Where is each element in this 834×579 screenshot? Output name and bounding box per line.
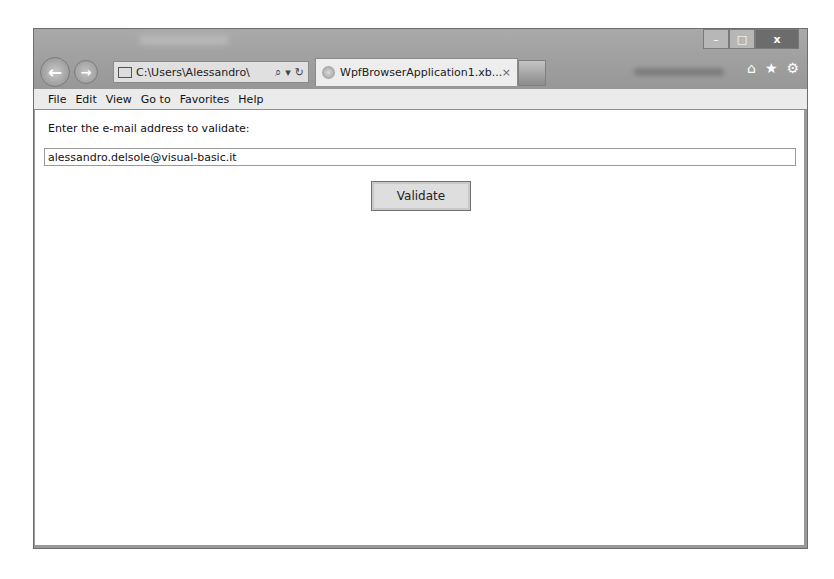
page-content: Enter the e-mail address to validate: Va…: [35, 110, 804, 545]
right-toolbar-icons: ⌂ ★ ⚙: [747, 60, 799, 76]
menu-favorites[interactable]: Favorites: [180, 93, 230, 106]
page-icon: [118, 67, 132, 78]
window-controls: – □ x: [703, 29, 799, 49]
menu-help[interactable]: Help: [238, 93, 263, 106]
blurred-label: [634, 68, 724, 76]
gear-icon[interactable]: ⚙: [786, 60, 799, 76]
minimize-button[interactable]: –: [703, 29, 729, 49]
address-bar[interactable]: C:\Users\Alessandro\ ⌕ ▾ ↻: [113, 61, 309, 83]
title-bar: – □ x ← → C:\Users\Alessandro\ ⌕ ▾ ↻ Wpf…: [34, 29, 807, 89]
close-tab-icon[interactable]: ×: [502, 66, 511, 79]
back-button[interactable]: ←: [40, 57, 70, 87]
search-icon[interactable]: ⌕: [275, 66, 281, 79]
menu-view[interactable]: View: [106, 93, 132, 106]
back-arrow-icon: ←: [48, 62, 62, 82]
refresh-icon[interactable]: ↻: [295, 66, 304, 79]
forward-button[interactable]: →: [74, 60, 98, 84]
close-button[interactable]: x: [755, 29, 799, 49]
menu-bar: File Edit View Go to Favorites Help: [34, 89, 807, 110]
email-prompt-label: Enter the e-mail address to validate:: [48, 122, 250, 135]
menu-edit[interactable]: Edit: [75, 93, 96, 106]
star-icon[interactable]: ★: [765, 60, 778, 76]
menu-file[interactable]: File: [48, 93, 66, 106]
tab-title: WpfBrowserApplication1.xb...: [340, 66, 502, 79]
blurred-title: [139, 35, 229, 45]
validate-button[interactable]: Validate: [371, 181, 471, 211]
menu-goto[interactable]: Go to: [141, 93, 171, 106]
chevron-down-icon[interactable]: ▾: [285, 66, 291, 79]
forward-arrow-icon: →: [81, 65, 92, 80]
email-input[interactable]: [44, 148, 796, 166]
ie-favicon-icon: [322, 66, 335, 79]
new-tab-button[interactable]: [518, 60, 546, 86]
home-icon[interactable]: ⌂: [747, 60, 756, 76]
address-text[interactable]: C:\Users\Alessandro\: [136, 66, 275, 79]
tab-active[interactable]: WpfBrowserApplication1.xb... ×: [315, 58, 518, 86]
browser-window: – □ x ← → C:\Users\Alessandro\ ⌕ ▾ ↻ Wpf…: [33, 28, 808, 549]
maximize-button[interactable]: □: [729, 29, 755, 49]
